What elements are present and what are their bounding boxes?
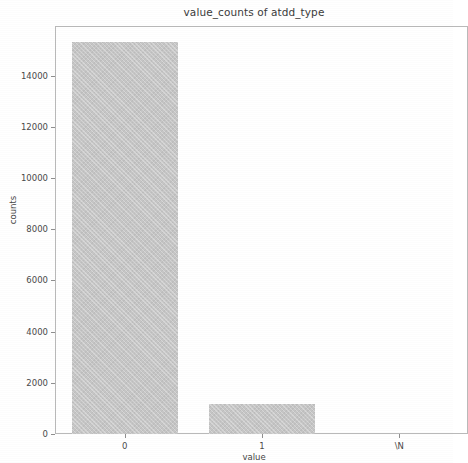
bar-1 bbox=[209, 404, 315, 434]
y-tick-mark bbox=[51, 178, 55, 179]
y-tick-mark bbox=[51, 76, 55, 77]
x-axis-label: value bbox=[55, 452, 453, 462]
chart-title: value_counts of atdd_type bbox=[55, 6, 453, 18]
bar-0 bbox=[72, 42, 178, 434]
y-tick-label: 0 bbox=[4, 429, 48, 439]
y-tick-mark bbox=[51, 383, 55, 384]
x-tick-mark bbox=[262, 434, 263, 438]
x-tick-mark bbox=[399, 434, 400, 438]
y-tick-label: 12000 bbox=[4, 122, 48, 132]
y-tick-label: 4000 bbox=[4, 327, 48, 337]
y-tick-label: 6000 bbox=[4, 275, 48, 285]
y-tick-label: 14000 bbox=[4, 71, 48, 81]
y-tick-mark bbox=[51, 280, 55, 281]
x-tick-label: 1 bbox=[232, 441, 292, 451]
x-tick-label: 0 bbox=[95, 441, 155, 451]
plot-area bbox=[56, 27, 468, 434]
x-tick-label: \N bbox=[369, 441, 429, 451]
y-axis-label: counts bbox=[8, 180, 18, 240]
y-tick-mark bbox=[51, 434, 55, 435]
y-tick-mark bbox=[51, 127, 55, 128]
x-tick-mark bbox=[125, 434, 126, 438]
y-tick-label: 2000 bbox=[4, 378, 48, 388]
y-tick-mark bbox=[51, 229, 55, 230]
y-tick-mark bbox=[51, 332, 55, 333]
